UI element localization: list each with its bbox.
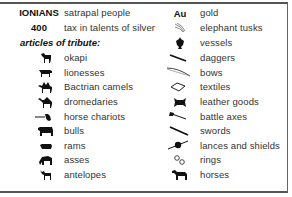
item-label: asses <box>64 154 89 165</box>
bull-icon <box>36 125 56 137</box>
item-label: leather goods <box>200 96 259 107</box>
item-label: elephant tusks <box>200 22 263 33</box>
tax-label: tax in talents of silver <box>64 22 155 33</box>
gold-icon: Au <box>170 7 190 19</box>
battle-axe-icon <box>168 110 188 122</box>
item-label: vessels <box>200 37 232 48</box>
ram-icon <box>36 140 56 152</box>
item-label: rings <box>200 154 221 165</box>
leather-goods-icon <box>170 96 190 108</box>
item-label: Bactrian camels <box>64 81 133 92</box>
okapi-icon <box>36 52 56 64</box>
item-label: bows <box>200 67 223 78</box>
tribute-header: articles of tribute: <box>20 37 100 48</box>
lance-shield-icon <box>166 139 190 151</box>
sword-icon <box>168 125 190 137</box>
item-label: battle axes <box>200 111 247 122</box>
tax-key: 400 <box>18 22 60 33</box>
item-label: swords <box>200 125 231 136</box>
item-label: lionesses <box>64 67 105 78</box>
elephant-tusk-icon <box>170 22 190 34</box>
item-label: daggers <box>200 52 235 63</box>
item-label: gold <box>200 7 218 18</box>
bactrian-camel-icon <box>36 81 56 93</box>
dromedary-icon <box>36 96 56 108</box>
textile-icon <box>168 81 188 93</box>
dagger-icon <box>168 52 188 64</box>
item-label: okapi <box>64 52 87 63</box>
bow-icon <box>166 66 192 78</box>
lioness-icon <box>36 67 56 79</box>
vessel-icon <box>170 37 190 49</box>
item-label: antelopes <box>64 169 106 180</box>
item-label: dromedaries <box>64 96 118 107</box>
horse-icon <box>170 169 190 181</box>
people-label: satrapal people <box>64 7 130 18</box>
item-label: textiles <box>200 81 230 92</box>
item-label: horse chariots <box>64 111 125 122</box>
item-label: bulls <box>64 125 84 136</box>
horse-chariot-icon <box>34 111 54 123</box>
item-label: horses <box>200 169 229 180</box>
ass-icon <box>36 154 56 166</box>
antelope-icon <box>36 169 56 181</box>
item-label: rams <box>64 140 86 151</box>
people-key: IONIANS <box>18 7 60 18</box>
ring-icon <box>170 154 190 166</box>
item-label: lances and shields <box>200 140 280 151</box>
